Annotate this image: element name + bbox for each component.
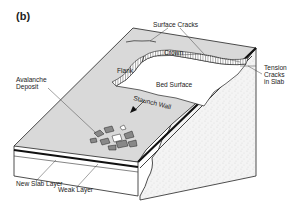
label-tension-cracks-2: Cracks: [264, 71, 285, 78]
label-new-slab-layer: New Slab Layer: [16, 180, 63, 188]
slab-avalanche-diagram: (b) Surface Cracks Crown Flank Bed Surfa…: [0, 0, 300, 201]
label-surface-cracks: Surface Cracks: [153, 21, 199, 28]
label-avalanche-deposit-2: Deposit: [16, 83, 39, 91]
label-weak-layer: Weak Layer: [58, 186, 94, 194]
panel-label: (b): [16, 10, 30, 22]
label-avalanche-deposit-1: Avalanche: [16, 76, 47, 83]
label-crown: Crown: [164, 49, 183, 56]
label-tension-cracks-1: Tension: [264, 64, 287, 71]
label-bed-surface: Bed Surface: [156, 81, 193, 88]
label-tension-cracks-3: in Slab: [264, 78, 284, 85]
label-flank: Flank: [117, 67, 134, 74]
